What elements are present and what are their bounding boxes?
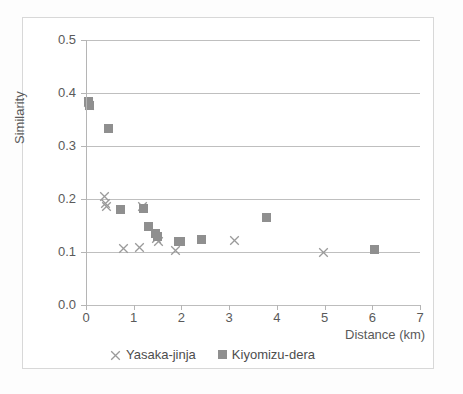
x-axis-tick-label: 5 xyxy=(310,311,340,324)
legend-square-marker-icon xyxy=(218,350,227,359)
legend-item[interactable]: Yasaka-jinja xyxy=(110,347,196,362)
chart-legend: Yasaka-jinjaKiyomizu-dera xyxy=(110,344,315,364)
data-point-kiyomizu-dera xyxy=(197,235,206,244)
data-point-kiyomizu-dera xyxy=(144,222,153,231)
y-axis-title: Similarity xyxy=(12,91,27,144)
data-point-kiyomizu-dera xyxy=(151,229,160,238)
data-point-yasaka-jinja xyxy=(170,245,181,256)
y-axis-line xyxy=(86,40,87,305)
y-axis-tick xyxy=(81,252,86,253)
data-point-yasaka-jinja xyxy=(151,233,162,244)
y-axis-tick xyxy=(81,93,86,94)
data-point-yasaka-jinja xyxy=(101,201,112,212)
gridline-y xyxy=(86,252,420,253)
gridline-y xyxy=(86,305,420,306)
data-point-yasaka-jinja xyxy=(153,236,164,247)
gridline-y xyxy=(86,199,420,200)
x-axis-title: Distance (km) xyxy=(345,327,425,342)
x-axis-tick-label: 0 xyxy=(71,311,101,324)
data-point-kiyomizu-dera xyxy=(174,237,183,246)
x-axis-tick-label: 4 xyxy=(262,311,292,324)
y-axis-tick-label: 0.4 xyxy=(36,86,76,99)
y-axis-tick xyxy=(81,199,86,200)
x-axis-tick-label: 2 xyxy=(166,311,196,324)
plot-area xyxy=(86,40,420,305)
x-axis-tick-label: 1 xyxy=(119,311,149,324)
y-axis-tick-label: 0.5 xyxy=(36,33,76,46)
gridline-y xyxy=(86,40,420,41)
data-point-kiyomizu-dera xyxy=(176,237,185,246)
data-point-kiyomizu-dera xyxy=(139,204,148,213)
x-axis-tick-label: 7 xyxy=(405,311,435,324)
y-axis-tick xyxy=(81,146,86,147)
legend-cross-marker-icon xyxy=(110,349,121,360)
y-axis-tick-label: 0.3 xyxy=(36,139,76,152)
scatter-chart-figure: 0.00.10.20.30.40.5 01234567 Similarity D… xyxy=(0,0,463,394)
legend-item[interactable]: Kiyomizu-dera xyxy=(218,347,315,362)
x-axis-tick-label: 6 xyxy=(357,311,387,324)
y-axis-tick-label: 0.0 xyxy=(36,298,76,311)
data-point-yasaka-jinja xyxy=(137,201,148,212)
legend-item-label: Kiyomizu-dera xyxy=(232,347,315,362)
y-axis-tick-label: 0.1 xyxy=(36,245,76,258)
data-point-kiyomizu-dera xyxy=(104,124,113,133)
data-point-yasaka-jinja xyxy=(229,235,240,246)
gridline-y xyxy=(86,93,420,94)
x-axis-tick-label: 3 xyxy=(214,311,244,324)
y-axis-tick xyxy=(81,40,86,41)
data-point-kiyomizu-dera xyxy=(262,213,271,222)
data-point-kiyomizu-dera xyxy=(153,232,162,241)
y-axis-tick-label: 0.2 xyxy=(36,192,76,205)
data-point-kiyomizu-dera xyxy=(116,205,125,214)
data-point-yasaka-jinja xyxy=(99,191,110,202)
legend-item-label: Yasaka-jinja xyxy=(126,347,196,362)
gridline-y xyxy=(86,146,420,147)
